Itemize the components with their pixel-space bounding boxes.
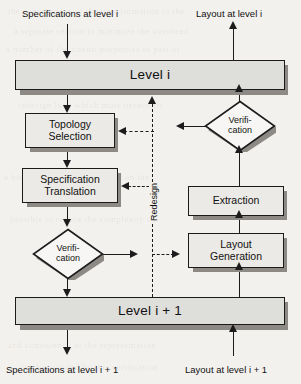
- edge-bus-layoutgen-arrowhead: [172, 250, 180, 258]
- node-specification-translation[interactable]: Specification Translation: [22, 168, 118, 203]
- edge-leveli1-layoutgen-arrowhead: [235, 262, 243, 270]
- edge-layoutgen-extraction-arrowhead: [235, 210, 243, 218]
- node-topology-selection[interactable]: Topology Selection: [25, 113, 115, 148]
- edge-spec-out-arrowhead: [63, 347, 71, 355]
- node-verification-left-label: Verifi- cation: [32, 228, 104, 280]
- edge-verifleft-bus-arrowhead: [130, 250, 138, 258]
- edge-layout-out-line: [233, 28, 234, 60]
- node-layout-generation-line2: Generation: [210, 251, 262, 263]
- bleed-text: a separate section to minimize the overh…: [14, 26, 189, 36]
- edge-topology-spectrans-arrowhead: [63, 160, 71, 168]
- edge-extraction-verifright-line: [239, 152, 240, 186]
- edge-verifright-bus-line: [182, 126, 206, 127]
- node-specification-translation-line1: Specification: [40, 174, 100, 186]
- edge-bus-topology-arrowhead: [118, 127, 126, 135]
- edge-leveli-topology-arrowhead: [63, 105, 71, 113]
- edge-leveli1-layoutgen-line: [239, 268, 240, 297]
- edge-spectrans-verifleft-arrowhead: [63, 219, 71, 227]
- node-topology-selection-line2: Selection: [48, 131, 91, 143]
- bleed-text: a number of the circuit properties of pa…: [6, 44, 180, 54]
- node-level-i-plus-1-label: Level i + 1: [118, 303, 182, 318]
- edge-verifright-bus-arrowhead: [176, 122, 184, 130]
- edge-extraction-verifright-arrowhead: [235, 145, 243, 153]
- edge-verifright-leveli-arrowhead: [235, 84, 243, 92]
- node-verification-left-line2: cation: [56, 254, 80, 264]
- bleed-text: redesign loop which must iteratively: [18, 100, 164, 110]
- edge-layout-in-line: [233, 330, 234, 356]
- node-extraction-label: Extraction: [213, 195, 260, 207]
- node-topology-selection-line1: Topology: [48, 119, 91, 131]
- edge-verifleft-leveli1-arrowhead: [63, 289, 71, 297]
- caption-layout-at-level-i: Layout at level i: [196, 8, 262, 19]
- diagram-canvas: the construction of the transformation t…: [0, 0, 301, 384]
- node-level-i-label: Level i: [130, 67, 170, 82]
- edge-bus-spectrans-arrowhead: [121, 182, 129, 190]
- bleed-text: possible to reduce the complexity to: [10, 214, 155, 224]
- caption-specifications-at-level-i-plus-1: Specifications at level i + 1: [6, 364, 118, 375]
- edge-layout-in-arrowhead: [229, 324, 237, 332]
- edge-spec-in-line: [67, 24, 68, 54]
- caption-specifications-at-level-i: Specifications at level i: [22, 8, 118, 19]
- node-verification-left[interactable]: Verifi- cation: [32, 228, 104, 280]
- edge-spec-in-arrowhead: [63, 51, 71, 59]
- edge-layout-out-arrowhead: [229, 21, 237, 29]
- node-layout-generation-line1: Layout: [210, 239, 262, 251]
- label-redesign: Redesign: [149, 182, 159, 222]
- node-level-i[interactable]: Level i: [15, 60, 285, 90]
- node-specification-translation-line2: Translation: [40, 186, 100, 198]
- edge-bus-topology-dashed: [124, 131, 154, 132]
- edge-bus-layoutgen-dashed: [152, 254, 174, 255]
- redesign-bus-top-arrowhead: [148, 96, 156, 104]
- node-level-i-plus-1[interactable]: Level i + 1: [15, 297, 285, 325]
- bleed-text: and consistency of the representation: [8, 340, 156, 350]
- node-verification-right-line2: cation: [228, 126, 252, 136]
- caption-layout-at-level-i-plus-1: Layout at level i + 1: [185, 364, 267, 375]
